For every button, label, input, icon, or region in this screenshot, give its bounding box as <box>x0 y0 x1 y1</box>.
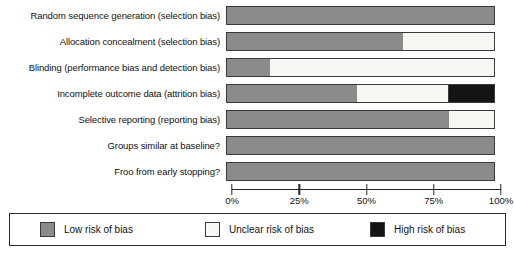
stacked-bar <box>226 110 495 129</box>
risk-of-bias-chart: Random sequence generation (selection bi… <box>0 0 515 254</box>
bar-row: Froo from early stopping? <box>0 158 515 184</box>
bar-segment-low <box>227 59 270 76</box>
bar-row-label: Selective reporting (reporting bias) <box>0 114 226 125</box>
legend-swatch-unclear <box>205 222 220 237</box>
x-axis-tick <box>500 184 501 195</box>
stacked-bar <box>226 32 495 51</box>
x-axis-tick <box>231 184 232 195</box>
legend-swatch-low <box>40 222 55 237</box>
legend-label: Unclear risk of bias <box>229 224 314 235</box>
bar-row-label: Groups similar at baseline? <box>0 140 226 151</box>
x-axis-tick <box>433 184 434 195</box>
bar-segment-unclear <box>357 85 447 102</box>
bar-row-label: Random sequence generation (selection bi… <box>0 10 226 21</box>
legend: Low risk of biasUnclear risk of biasHigh… <box>9 213 506 246</box>
stacked-bar <box>226 162 495 181</box>
x-axis-tick-label: 100% <box>489 195 513 206</box>
x-axis-tick-label: 75% <box>424 195 443 206</box>
bar-rows-container: Random sequence generation (selection bi… <box>0 0 515 182</box>
bar-row: Blinding (performance bias and detection… <box>0 54 515 80</box>
legend-item: High risk of bias <box>340 222 505 237</box>
bar-segment-low <box>227 163 494 180</box>
bar-segment-unclear <box>449 111 494 128</box>
bar-row: Groups similar at baseline? <box>0 132 515 158</box>
bar-row: Incomplete outcome data (attrition bias) <box>0 80 515 106</box>
bar-segment-low <box>227 7 494 24</box>
stacked-bar <box>226 84 495 103</box>
legend-label: High risk of bias <box>394 224 465 235</box>
legend-label: Low risk of bias <box>64 224 133 235</box>
stacked-bar <box>226 58 495 77</box>
bar-segment-low <box>227 137 494 154</box>
x-axis-tick-label: 50% <box>357 195 376 206</box>
bar-segment-low <box>227 111 449 128</box>
bar-segment-high <box>448 85 494 102</box>
bar-row-label: Allocation concealment (selection bias) <box>0 36 226 47</box>
bar-row: Allocation concealment (selection bias) <box>0 28 515 54</box>
bar-row-label: Incomplete outcome data (attrition bias) <box>0 88 226 99</box>
x-axis-tick <box>299 184 300 195</box>
legend-item: Unclear risk of bias <box>175 222 340 237</box>
bar-segment-low <box>227 33 403 50</box>
bar-segment-low <box>227 85 357 102</box>
x-axis-tick-label: 25% <box>290 195 309 206</box>
x-axis-tick-label: 0% <box>225 195 239 206</box>
x-axis-tick <box>366 184 367 195</box>
stacked-bar <box>226 6 495 25</box>
bar-row-label: Froo from early stopping? <box>0 166 226 177</box>
bar-row: Selective reporting (reporting bias) <box>0 106 515 132</box>
stacked-bar <box>226 136 495 155</box>
bar-row-label: Blinding (performance bias and detection… <box>0 62 226 73</box>
bar-segment-unclear <box>403 33 494 50</box>
bar-row: Random sequence generation (selection bi… <box>0 2 515 28</box>
bar-segment-unclear <box>270 59 494 76</box>
x-axis: 0%25%50%75%100% <box>232 184 501 206</box>
legend-item: Low risk of bias <box>10 222 175 237</box>
legend-swatch-high <box>370 222 385 237</box>
